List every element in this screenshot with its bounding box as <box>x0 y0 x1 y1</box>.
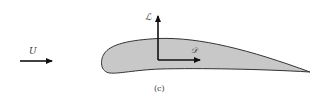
freestream-label: U <box>29 46 37 56</box>
airfoil-diagram: U ℒ 𝒟 (c) <box>0 0 325 98</box>
figure-caption: (c) <box>154 84 165 93</box>
lift-label: ℒ <box>145 12 152 22</box>
diagram-svg: U ℒ 𝒟 (c) <box>0 0 325 98</box>
airfoil-shape <box>102 38 310 73</box>
